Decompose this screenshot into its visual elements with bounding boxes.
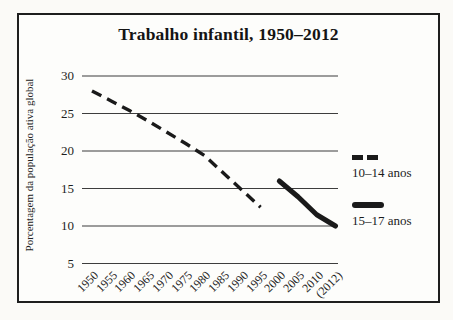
y-tick-label-15: 15 xyxy=(38,181,74,197)
y-tick-label-20: 20 xyxy=(38,143,74,159)
series-line-10-14-anos xyxy=(92,91,261,207)
dashed-line-sample-icon xyxy=(352,155,378,160)
y-tick-label-30: 30 xyxy=(38,68,74,84)
chart-page: Trabalho infantil, 1950–2012 Porcentagem… xyxy=(0,0,453,320)
series-line-15-17-anos xyxy=(279,181,335,226)
y-tick-label-25: 25 xyxy=(38,106,74,122)
y-tick-label-10: 10 xyxy=(38,218,74,234)
legend-item-15-17: 15–17 anos xyxy=(352,202,412,229)
solid-line-sample-icon xyxy=(352,202,384,208)
legend-label-10-14: 10–14 anos xyxy=(352,165,412,181)
legend-label-15-17: 15–17 anos xyxy=(352,213,412,229)
y-tick-label-5: 5 xyxy=(38,256,74,272)
legend-item-10-14: 10–14 anos xyxy=(352,155,412,181)
